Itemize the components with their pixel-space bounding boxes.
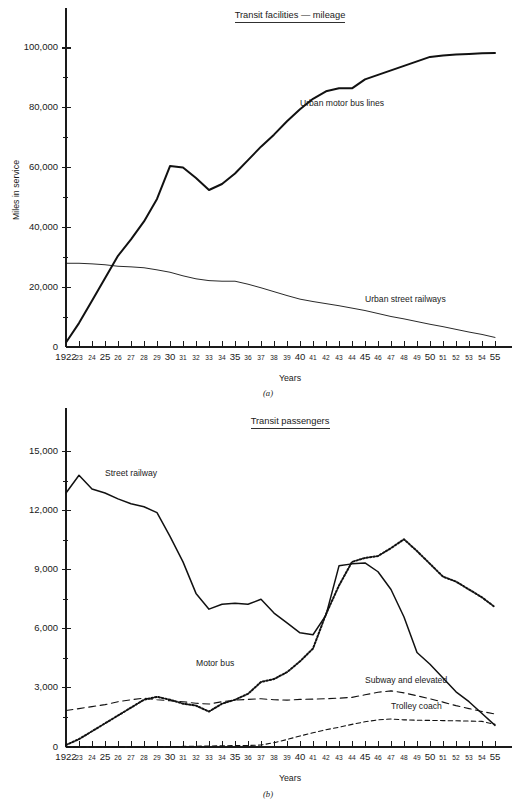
- chart-b-title-group: Transit passengers: [251, 416, 330, 428]
- figure-a-caption: (a): [263, 388, 273, 398]
- x-tick-label: 35: [230, 351, 241, 362]
- x-tick-label: 1922: [55, 351, 76, 362]
- x-tick-label: 55: [490, 351, 501, 362]
- x-tick-label: 36: [244, 754, 252, 761]
- chart-b-x-axis-title: Years: [279, 773, 302, 783]
- chart-a-title: Transit facilities — mileage: [235, 10, 346, 20]
- x-tick-label: 32: [192, 754, 200, 761]
- y-tick-label: 20,000: [29, 281, 58, 292]
- x-tick-label: 38: [270, 354, 278, 361]
- y-tick-label: 80,000: [29, 101, 58, 112]
- x-tick-label: 31: [179, 354, 187, 361]
- y-tick-label: 100,000: [24, 41, 58, 52]
- y-tick-label: 3,000: [34, 681, 58, 692]
- x-tick-label: 43: [335, 354, 343, 361]
- y-tick-label: 60,000: [29, 161, 58, 172]
- series-label-urban-motor-bus-lines: Urban motor bus lines: [300, 98, 384, 108]
- x-tick-label: 45: [360, 751, 371, 762]
- x-tick-label: 53: [465, 754, 473, 761]
- x-tick-label: 53: [465, 354, 473, 361]
- x-tick-label: 41: [309, 354, 317, 361]
- x-tick-label: 29: [153, 354, 161, 361]
- x-tick-label: 23: [75, 754, 83, 761]
- chart-a-x-axis-title: Years: [279, 373, 302, 383]
- figure-b-caption: (b): [263, 789, 273, 799]
- x-tick-label: 43: [335, 754, 343, 761]
- chart-a-x-tick-labels: 1922232425262728293031323334353637383940…: [55, 351, 500, 362]
- x-tick-label: 30: [165, 351, 176, 362]
- chart-a-series-labels: Urban motor bus linesUrban street railwa…: [300, 98, 446, 303]
- series-line-trolley-coach: [66, 719, 495, 747]
- chart-a-y-axis-title: Miles in service: [11, 160, 21, 220]
- x-tick-label: 50: [425, 751, 436, 762]
- x-tick-label: 27: [127, 354, 135, 361]
- x-tick-label: 1922: [55, 751, 76, 762]
- x-tick-label: 37: [257, 354, 265, 361]
- x-tick-label: 28: [140, 754, 148, 761]
- x-tick-label: 24: [88, 754, 96, 761]
- x-tick-label: 52: [452, 354, 460, 361]
- x-tick-label: 28: [140, 354, 148, 361]
- x-tick-label: 26: [114, 354, 122, 361]
- series-label-motor-bus: Motor bus: [196, 658, 234, 668]
- x-tick-label: 50: [425, 351, 436, 362]
- x-tick-label: 44: [348, 754, 356, 761]
- x-tick-label: 37: [257, 754, 265, 761]
- x-tick-label: 39: [283, 754, 291, 761]
- x-tick-label: 40: [295, 351, 306, 362]
- chart-b-y-tick-labels: 03,0006,0009,00012,00015,000: [29, 445, 58, 751]
- y-tick-label: 6,000: [34, 622, 58, 633]
- y-tick-label: 0: [53, 341, 58, 352]
- y-tick-label: 0: [53, 741, 58, 752]
- series-label-street-railway: Street railway: [105, 468, 158, 478]
- figure-a-transit-facilities: Transit facilities — mileage 020,00040,0…: [0, 0, 521, 400]
- series-label-trolley-coach: Trolley coach: [391, 701, 442, 711]
- x-tick-label: 30: [165, 751, 176, 762]
- series-label-subway-and-elevated: Subway and elevated: [365, 675, 447, 685]
- chart-a-y-tick-labels: 020,00040,00060,00080,000100,000: [24, 41, 58, 351]
- x-tick-label: 47: [387, 754, 395, 761]
- x-tick-label: 41: [309, 754, 317, 761]
- x-tick-label: 52: [452, 754, 460, 761]
- x-tick-label: 25: [100, 751, 111, 762]
- x-tick-label: 32: [192, 354, 200, 361]
- y-tick-label: 15,000: [29, 445, 58, 456]
- chart-b-x-tick-labels: 1922232425262728293031323334353637383940…: [55, 751, 500, 762]
- figure-b-transit-passengers: Transit passengers 03,0006,0009,00012,00…: [0, 400, 521, 804]
- x-tick-label: 40: [295, 751, 306, 762]
- x-tick-label: 38: [270, 754, 278, 761]
- x-tick-label: 54: [478, 754, 486, 761]
- x-tick-label: 26: [114, 754, 122, 761]
- x-tick-label: 36: [244, 354, 252, 361]
- x-tick-label: 48: [400, 754, 408, 761]
- x-tick-label: 42: [322, 354, 330, 361]
- x-tick-label: 46: [374, 354, 382, 361]
- x-tick-label: 35: [230, 751, 241, 762]
- x-tick-label: 54: [478, 354, 486, 361]
- x-tick-label: 55: [490, 751, 501, 762]
- chart-b-title: Transit passengers: [251, 416, 330, 426]
- x-tick-label: 39: [283, 354, 291, 361]
- y-tick-label: 40,000: [29, 221, 58, 232]
- x-tick-label: 33: [205, 354, 213, 361]
- x-tick-label: 31: [179, 754, 187, 761]
- chart-b-svg: Transit passengers 03,0006,0009,00012,00…: [0, 400, 521, 804]
- x-tick-label: 44: [348, 354, 356, 361]
- x-tick-label: 24: [88, 354, 96, 361]
- x-tick-label: 25: [100, 351, 111, 362]
- chart-a-svg: Transit facilities — mileage 020,00040,0…: [0, 0, 521, 400]
- x-tick-label: 51: [439, 354, 447, 361]
- x-tick-label: 49: [413, 354, 421, 361]
- x-tick-label: 27: [127, 754, 135, 761]
- x-tick-label: 46: [374, 754, 382, 761]
- x-tick-label: 29: [153, 754, 161, 761]
- x-tick-label: 49: [413, 754, 421, 761]
- x-tick-label: 45: [360, 351, 371, 362]
- y-tick-label: 9,000: [34, 563, 58, 574]
- series-line-motor-bus: [66, 539, 495, 745]
- x-tick-label: 48: [400, 354, 408, 361]
- x-tick-label: 47: [387, 354, 395, 361]
- chart-b-series-labels: Street railwayMotor busSubway and elevat…: [105, 468, 447, 710]
- series-line-street-railway: [66, 475, 495, 725]
- y-tick-label: 12,000: [29, 504, 58, 515]
